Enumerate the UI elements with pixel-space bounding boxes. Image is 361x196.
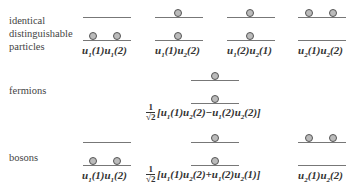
upper-level-line bbox=[298, 17, 346, 18]
lower-level-line bbox=[191, 103, 239, 104]
upper-level-line bbox=[155, 17, 203, 18]
prefactor-fraction: 1 √2 bbox=[146, 165, 155, 184]
lower-level-line bbox=[83, 40, 131, 41]
particle-icon bbox=[305, 9, 313, 17]
state-formula: u2(1)u2(2) bbox=[298, 44, 343, 59]
label-particles: particles bbox=[9, 40, 45, 53]
particle-icon bbox=[211, 134, 219, 142]
state-formula: [u1(1)u2(2)−u1(2)u2(2)] bbox=[157, 106, 261, 121]
lower-level-line bbox=[155, 40, 203, 41]
label-bosons: bosons bbox=[9, 151, 38, 164]
upper-level-line bbox=[191, 142, 239, 143]
particle-icon bbox=[174, 9, 182, 17]
label-identical: identical bbox=[9, 14, 45, 27]
particle-icon bbox=[211, 95, 219, 103]
label-distinguishable: distinguishable bbox=[9, 27, 73, 40]
particle-icon bbox=[246, 32, 254, 40]
particle-icon bbox=[174, 32, 182, 40]
particle-icon bbox=[305, 134, 313, 142]
label-fermions: fermions bbox=[9, 84, 46, 97]
particle-icon bbox=[211, 157, 219, 165]
particle-icon bbox=[329, 9, 337, 17]
particle-icon bbox=[113, 32, 121, 40]
state-formula: u1(1)u1(2) bbox=[82, 44, 127, 59]
particle-icon bbox=[329, 134, 337, 142]
lower-level-line bbox=[298, 165, 346, 166]
state-formula: u2(1)u2(2) bbox=[298, 169, 343, 184]
particle-icon bbox=[89, 157, 97, 165]
upper-level-line bbox=[227, 17, 275, 18]
lower-level-line bbox=[191, 165, 239, 166]
state-formula: u1(2)u2(1) bbox=[227, 44, 272, 59]
lower-level-line bbox=[227, 40, 275, 41]
particle-icon bbox=[89, 32, 97, 40]
upper-level-line bbox=[298, 142, 346, 143]
upper-level-line bbox=[83, 142, 131, 143]
lower-level-line bbox=[83, 165, 131, 166]
prefactor-fraction: 1 √2 bbox=[146, 103, 155, 122]
state-formula: [u1(1)u2(2)+u1(2)u2(1)] bbox=[157, 168, 260, 183]
upper-level-line bbox=[83, 17, 131, 18]
state-formula: u1(1)u1(2) bbox=[82, 169, 127, 184]
upper-level-line bbox=[191, 80, 239, 81]
particle-icon bbox=[113, 157, 121, 165]
particle-icon bbox=[211, 72, 219, 80]
state-formula: u1(1)u2(2) bbox=[155, 44, 200, 59]
particle-icon bbox=[246, 9, 254, 17]
lower-level-line bbox=[298, 40, 346, 41]
